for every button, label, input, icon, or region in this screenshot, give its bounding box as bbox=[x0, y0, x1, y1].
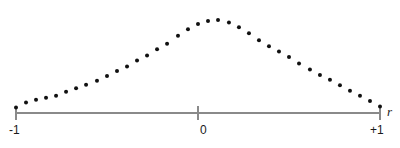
data-point bbox=[328, 78, 332, 82]
data-point bbox=[338, 83, 342, 87]
axis-group bbox=[16, 106, 380, 120]
data-point bbox=[257, 38, 261, 42]
x-tick-label-min: -1 bbox=[9, 124, 20, 136]
scatter-figure: -1 0 +1 r bbox=[0, 0, 400, 148]
data-point bbox=[227, 20, 231, 24]
data-point bbox=[105, 74, 109, 78]
x-tick-label-max: +1 bbox=[370, 124, 384, 136]
data-point bbox=[308, 67, 312, 71]
data-point bbox=[237, 25, 241, 29]
data-point bbox=[34, 98, 38, 102]
data-point bbox=[95, 79, 99, 83]
data-point bbox=[155, 47, 159, 51]
data-point bbox=[24, 101, 28, 105]
data-point bbox=[74, 86, 78, 90]
data-point bbox=[277, 50, 281, 54]
x-tick-label-mid: 0 bbox=[200, 124, 207, 136]
data-point bbox=[378, 105, 382, 109]
data-point bbox=[368, 99, 372, 103]
data-point bbox=[196, 22, 200, 26]
data-point bbox=[135, 59, 139, 63]
data-point bbox=[44, 96, 48, 100]
data-point bbox=[176, 34, 180, 38]
x-axis-label: r bbox=[387, 105, 392, 118]
data-points-group bbox=[14, 18, 382, 110]
data-point bbox=[64, 90, 68, 94]
data-point bbox=[14, 106, 18, 110]
data-point bbox=[125, 64, 129, 68]
data-point bbox=[145, 54, 149, 58]
data-point bbox=[165, 42, 169, 46]
data-point bbox=[348, 89, 352, 93]
data-point bbox=[186, 27, 190, 31]
data-point bbox=[206, 19, 210, 23]
data-point bbox=[318, 73, 322, 77]
data-point bbox=[54, 94, 58, 98]
data-point bbox=[216, 18, 220, 22]
data-point bbox=[247, 31, 251, 35]
data-point bbox=[287, 55, 291, 59]
data-point bbox=[358, 94, 362, 98]
data-point bbox=[84, 83, 88, 87]
data-point bbox=[115, 69, 119, 73]
data-point bbox=[267, 44, 271, 48]
data-point bbox=[297, 62, 301, 66]
